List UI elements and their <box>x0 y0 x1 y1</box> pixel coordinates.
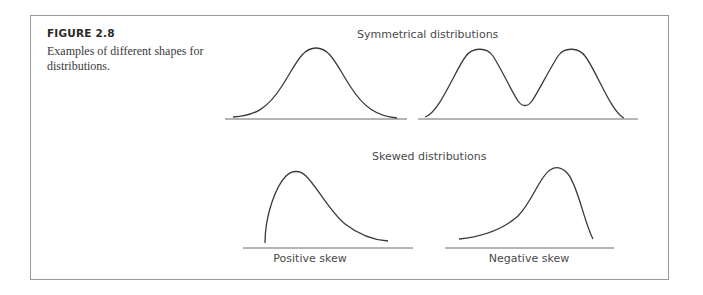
positive-skew-plot <box>243 172 413 249</box>
bimodal-curve <box>425 49 624 118</box>
positive-skew-curve <box>265 172 388 244</box>
negative-skew-curve <box>459 168 593 239</box>
unimodal-normal-plot <box>225 48 407 119</box>
negative-skew-plot <box>445 168 614 248</box>
positive-skew-label: Positive skew <box>273 252 346 265</box>
normal-curve <box>233 48 397 118</box>
bimodal-plot <box>418 49 638 119</box>
negative-skew-label: Negative skew <box>489 252 569 265</box>
distribution-plots <box>0 0 703 295</box>
